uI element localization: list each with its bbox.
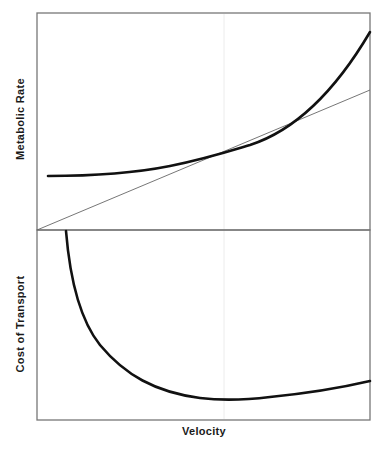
tangent-line: [37, 90, 370, 230]
cost-of-transport-curve: [66, 231, 370, 400]
chart-canvas: [0, 0, 385, 452]
bottom-y-axis-label: Cost of Transport: [14, 274, 26, 374]
metabolic-rate-curve: [48, 32, 370, 176]
x-axis-label: Velocity: [182, 425, 226, 437]
top-y-axis-label: Metabolic Rate: [14, 80, 26, 160]
top-panel-frame: [37, 13, 370, 230]
